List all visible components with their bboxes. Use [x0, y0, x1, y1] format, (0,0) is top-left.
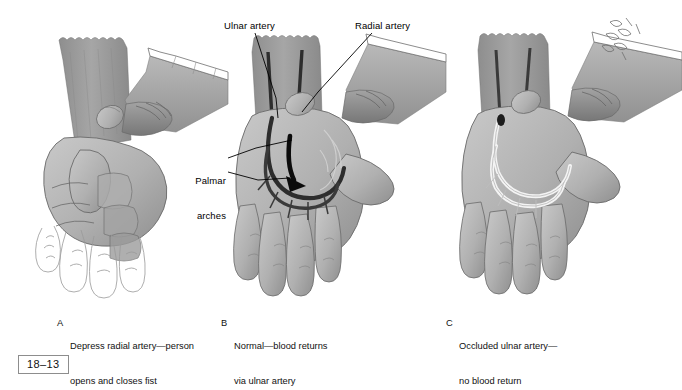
palmar-arches-label-line2: arches	[178, 210, 226, 222]
finger-middle	[512, 212, 540, 294]
subject-forearm	[59, 38, 131, 151]
caption-b-line1: Normal—blood returns	[234, 341, 328, 353]
fist-finger-1	[98, 173, 132, 209]
radial-artery-label: Radial artery	[355, 20, 410, 32]
finger-index	[541, 204, 567, 280]
fist-finger-2	[104, 205, 138, 237]
caption-letter-c: C	[446, 318, 453, 330]
panel-a-artwork	[0, 0, 228, 300]
caption-letter-b: B	[221, 318, 227, 330]
caption-a-line2: opens and closes fist	[70, 376, 194, 388]
caption-a-line1: Depress radial artery—person	[70, 341, 194, 353]
figure-number-text: 18–13	[27, 358, 60, 370]
panel-c-illustration	[446, 0, 682, 300]
finger-middle	[286, 214, 314, 296]
finger-index	[315, 206, 341, 282]
caption-a: Depress radial artery—person opens and c…	[70, 318, 194, 390]
caption-c: Occluded ulnar artery— no blood return	[459, 318, 557, 390]
caption-letter-a: A	[57, 318, 63, 330]
caption-c-line2: no blood return	[459, 376, 557, 388]
caption-c-line1: Occluded ulnar artery—	[459, 341, 557, 353]
ulnar-artery-label: Ulnar artery	[224, 20, 275, 32]
caption-b: Normal—blood returns via ulnar artery	[234, 318, 328, 390]
panel-a-illustration	[0, 0, 228, 300]
palmar-arches-label: Palmar arches	[178, 152, 226, 244]
caption-b-line2: via ulnar artery	[234, 376, 328, 388]
finger-ring	[259, 212, 287, 296]
finger-little	[234, 204, 262, 280]
figure-number-box: 18–13	[18, 355, 69, 374]
panel-c-artwork	[446, 0, 682, 300]
finger-ring	[485, 210, 513, 294]
finger-little	[460, 202, 488, 278]
panel-b-illustration	[228, 0, 446, 300]
palmar-arches-label-line1: Palmar	[178, 175, 226, 187]
occlusion-marker	[497, 114, 505, 126]
panel-b-artwork	[228, 0, 446, 300]
